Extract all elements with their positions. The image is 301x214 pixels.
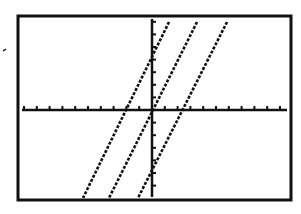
graph-screen: [0, 0, 301, 214]
stray-mark: [3, 49, 6, 51]
